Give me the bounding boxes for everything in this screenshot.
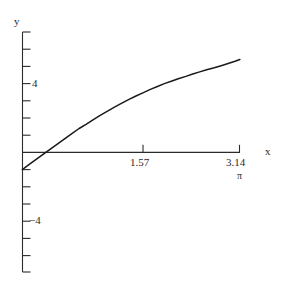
y-axis-label: y: [14, 16, 20, 27]
plot-svg: [0, 0, 288, 290]
x-tick-label-314: 3.14: [226, 157, 245, 168]
data-curve: [22, 60, 240, 170]
chart-canvas: y x 4 −4 1.57 3.14 π: [0, 0, 288, 290]
pi-symbol-label: π: [237, 170, 242, 181]
y-tick-label-neg4: −4: [29, 215, 41, 226]
x-tick-label-157: 1.57: [130, 157, 149, 168]
x-axis-label: x: [265, 146, 271, 157]
x-axis-ticks: [143, 145, 240, 153]
y-tick-label-4: 4: [32, 78, 38, 89]
